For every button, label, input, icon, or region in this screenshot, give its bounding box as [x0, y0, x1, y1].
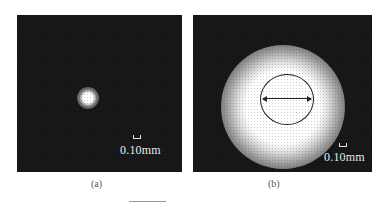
scale-label: 0.10mm: [324, 150, 365, 165]
caption-a: (a): [91, 178, 102, 189]
scale-bar-icon: [339, 143, 347, 147]
panel-a-image: 0.10mm: [17, 15, 182, 172]
caption-b: (b): [268, 178, 280, 189]
panel-b-image: 0.10mm: [193, 15, 372, 172]
scale-label: 0.10mm: [120, 143, 161, 158]
diameter-arrow-icon: [263, 98, 311, 99]
bright-spot-small: [77, 87, 99, 109]
circle-outline: [260, 74, 314, 125]
scale-bar-icon: [133, 135, 141, 139]
divider-line: [129, 201, 166, 202]
